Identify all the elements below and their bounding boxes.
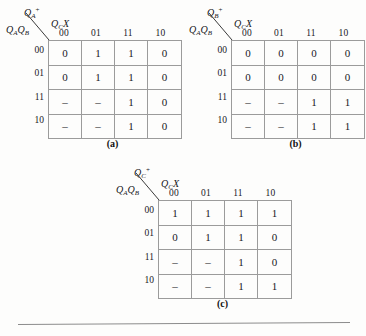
kmap-a-cell-0-0: 0 (49, 41, 82, 66)
kmap-b-caption: (b) (231, 138, 360, 149)
kmap-b-cell-1-2: 0 (298, 65, 331, 90)
kmap-c-cell-2-2: 1 (225, 250, 258, 275)
kmap-b-cell-2-3: 1 (331, 90, 365, 115)
kmap-c-cell-1-1: 1 (192, 225, 225, 250)
kmap-c-cell-0-2: 1 (225, 201, 258, 226)
kmap-a-col-header-0: 00 (48, 28, 80, 38)
table-row: – – 1 1 (159, 274, 292, 299)
kmap-a-cell-3-0: – (49, 114, 82, 139)
kmap-a-col-header-2: 11 (112, 28, 144, 38)
kmap-c-cell-1-0: 0 (159, 225, 192, 250)
kmap-a-cell-2-2: 1 (115, 90, 148, 115)
kmap-b-col-header-3: 10 (327, 28, 360, 38)
kmap-b: QB+ QCX QAQB 00 01 11 10 00 01 11 10 0 0… (183, 0, 366, 150)
kmap-c-cell-3-2: 1 (225, 274, 258, 299)
kmap-c-row-header-1: 01 (132, 228, 154, 238)
table-row: 0 0 0 0 (232, 65, 365, 90)
table-row: 1 1 1 1 (159, 201, 292, 226)
kmap-b-col-header-0: 00 (231, 28, 263, 38)
kmap-c-cell-0-1: 1 (192, 201, 225, 226)
kmap-c-cell-0-3: 1 (258, 201, 292, 226)
kmap-b-col-header-1: 01 (263, 28, 295, 38)
kmap-c-col-header-0: 00 (158, 188, 190, 198)
kmap-c-caption: (c) (158, 298, 287, 309)
kmap-b-col-header-2: 11 (295, 28, 327, 38)
kmap-b-cell-3-0: – (232, 114, 265, 139)
kmap-b-cell-3-1: – (265, 114, 298, 139)
table-row: – – 1 0 (159, 250, 292, 275)
kmap-c-row-header-0: 00 (132, 205, 154, 215)
kmap-b-cell-1-0: 0 (232, 65, 265, 90)
footer-rule (18, 322, 350, 325)
kmap-c-cell-2-0: – (159, 250, 192, 275)
kmap-a-row-header-0: 00 (22, 45, 44, 55)
kmap-a-col-header-1: 01 (80, 28, 112, 38)
kmap-c-cell-1-3: 0 (258, 225, 292, 250)
kmap-b-cell-3-2: 1 (298, 114, 331, 139)
kmap-a-cell-1-3: 0 (148, 65, 182, 90)
kmap-a-cell-3-3: 0 (148, 114, 182, 139)
kmap-c-cell-1-2: 1 (225, 225, 258, 250)
kmap-a-caption: (a) (48, 138, 177, 149)
table-row: 0 1 1 0 (49, 41, 182, 66)
kmap-b-cell-2-2: 1 (298, 90, 331, 115)
kmap-c-cell-3-3: 1 (258, 274, 292, 299)
kmap-a-cell-1-2: 1 (115, 65, 148, 90)
kmap-c-cell-3-1: – (192, 274, 225, 299)
kmap-b-cell-1-3: 0 (331, 65, 365, 90)
table-row: – – 1 1 (232, 90, 365, 115)
table-row: 0 0 0 0 (232, 41, 365, 66)
kmap-c-row-header-3: 10 (132, 275, 154, 285)
kmap-a-col-header-3: 10 (144, 28, 177, 38)
kmap-b-cell-2-0: – (232, 90, 265, 115)
figure-page: QA+ QCX QAQB 00 01 11 10 00 01 11 10 0 1… (0, 0, 366, 336)
kmap-b-row-header-2: 11 (205, 92, 227, 102)
kmap-c-col-header-3: 10 (254, 188, 287, 198)
kmap-a: QA+ QCX QAQB 00 01 11 10 00 01 11 10 0 1… (0, 0, 183, 150)
kmap-c-cell-2-3: 0 (258, 250, 292, 275)
table-row: – – 1 0 (49, 90, 182, 115)
table-row: – – 1 1 (232, 114, 365, 139)
kmap-a-cell-3-2: 1 (115, 114, 148, 139)
kmap-b-row-header-3: 10 (205, 115, 227, 125)
kmap-b-row-header-0: 00 (205, 45, 227, 55)
kmap-c-cell-2-1: – (192, 250, 225, 275)
kmap-c-grid: 1 1 1 1 0 1 1 0 – – 1 0 – – 1 1 (158, 200, 292, 299)
kmap-a-cell-0-1: 1 (82, 41, 115, 66)
kmap-a-cell-0-3: 0 (148, 41, 182, 66)
kmap-b-cell-0-2: 0 (298, 41, 331, 66)
kmap-b-cell-3-3: 1 (331, 114, 365, 139)
kmap-a-cell-2-3: 0 (148, 90, 182, 115)
kmap-a-row-header-2: 11 (22, 92, 44, 102)
kmap-b-cell-0-0: 0 (232, 41, 265, 66)
kmap-a-cell-3-1: – (82, 114, 115, 139)
kmap-a-cell-2-0: – (49, 90, 82, 115)
kmap-c-cell-0-0: 1 (159, 201, 192, 226)
kmap-a-cell-1-0: 0 (49, 65, 82, 90)
kmap-b-cell-0-1: 0 (265, 41, 298, 66)
kmap-b-cell-2-1: – (265, 90, 298, 115)
kmap-a-cell-1-1: 1 (82, 65, 115, 90)
table-row: – – 1 0 (49, 114, 182, 139)
kmap-c: QC+ QCX QAQB 00 01 11 10 00 01 11 10 1 1… (110, 160, 293, 320)
kmap-b-row-header-1: 01 (205, 68, 227, 78)
table-row: 0 1 1 0 (159, 225, 292, 250)
kmap-b-cell-0-3: 0 (331, 41, 365, 66)
kmap-c-row-header-2: 11 (132, 252, 154, 262)
kmap-c-col-header-1: 01 (190, 188, 222, 198)
kmap-a-row-header-1: 01 (22, 68, 44, 78)
kmap-b-cell-1-1: 0 (265, 65, 298, 90)
table-row: 0 1 1 0 (49, 65, 182, 90)
kmap-a-row-header-3: 10 (22, 115, 44, 125)
kmap-b-grid: 0 0 0 0 0 0 0 0 – – 1 1 – – 1 1 (231, 40, 365, 139)
kmap-a-cell-0-2: 1 (115, 41, 148, 66)
kmap-a-cell-2-1: – (82, 90, 115, 115)
kmap-c-cell-3-0: – (159, 274, 192, 299)
kmap-c-col-header-2: 11 (222, 188, 254, 198)
kmap-a-grid: 0 1 1 0 0 1 1 0 – – 1 0 – – 1 0 (48, 40, 182, 139)
